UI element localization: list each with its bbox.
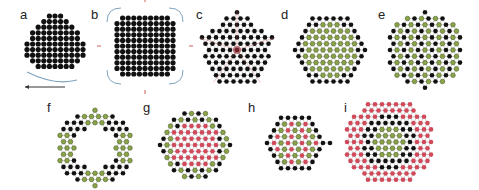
panel-label-g: g xyxy=(143,101,150,114)
panel-label-e: e xyxy=(378,8,385,21)
panel-e xyxy=(388,10,463,90)
panel-f xyxy=(58,108,133,188)
panel-c xyxy=(199,10,275,84)
panel-label-f: f xyxy=(47,101,51,114)
panel-label-b: b xyxy=(91,8,98,21)
panel-label-i: i xyxy=(344,101,347,114)
panel-label-a: a xyxy=(20,8,27,21)
panel-g xyxy=(158,111,233,179)
panel-label-h: h xyxy=(248,101,255,114)
rotation-arrow-icon xyxy=(27,72,77,82)
panel-h xyxy=(265,116,333,171)
panel-label-d: d xyxy=(281,8,288,21)
panel-label-c: c xyxy=(196,8,203,21)
panel-b xyxy=(97,0,193,94)
panel-d xyxy=(293,16,368,84)
panel-a xyxy=(24,13,85,89)
figure-canvas xyxy=(0,0,479,190)
panel-i xyxy=(345,102,434,182)
